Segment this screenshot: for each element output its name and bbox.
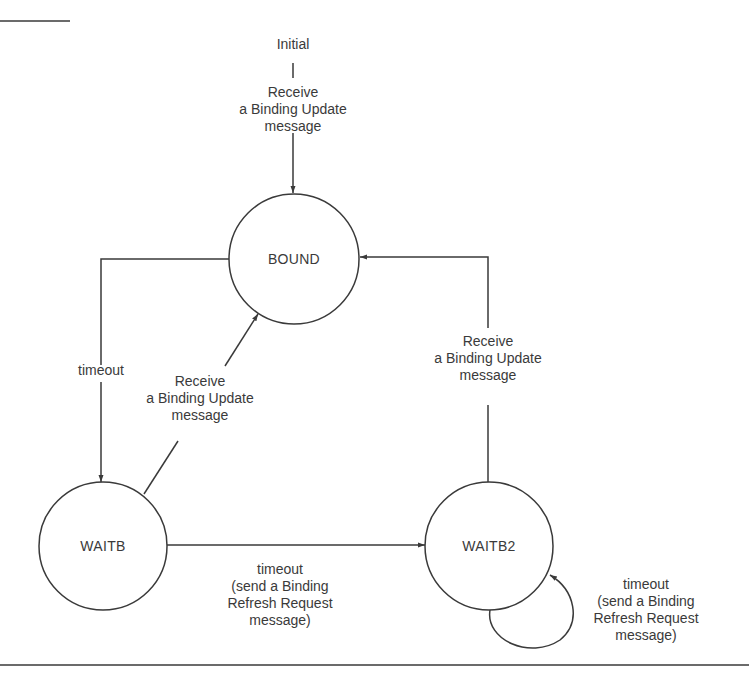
edge-bound-to-waitb [101,259,229,365]
state-label-waitb2: WAITB2 [462,538,515,554]
edge-waitb2-self-loop [490,575,574,648]
bound-to-waitb-label: timeout [78,362,124,379]
waitb2-to-bound-label: Receive a Binding Update message [434,333,541,384]
edge-waitb-to-bound-upper [225,314,258,366]
edge-waitb2-to-bound-upper [360,257,488,328]
state-label-bound: BOUND [268,251,320,267]
edge-waitb-to-bound-lower [144,441,178,494]
initial-label: Initial [277,36,310,53]
state-label-waitb: WAITB [80,538,125,554]
waitb-to-bound-label: Receive a Binding Update message [146,373,253,424]
initial-transition-label: Receive a Binding Update message [239,84,346,135]
waitb2-self-loop-label: timeout (send a Binding Refresh Request … [593,576,698,644]
waitb-to-waitb2-label: timeout (send a Binding Refresh Request … [227,561,332,629]
